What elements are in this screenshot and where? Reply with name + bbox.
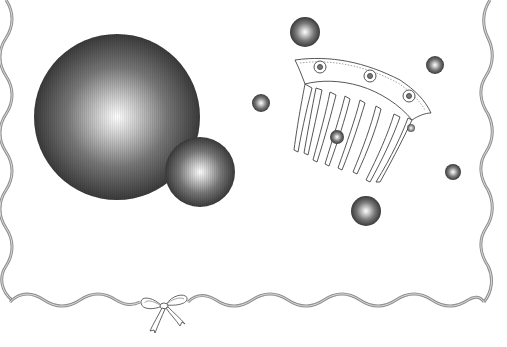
comb-sphere — [330, 130, 344, 144]
ribbon-bow-icon — [141, 295, 187, 333]
frame-bottom-ribbon — [10, 294, 484, 306]
top-sphere — [290, 17, 320, 47]
lower-right-sphere — [445, 164, 461, 180]
hair-comb-illustration — [294, 58, 431, 182]
bottom-sphere — [351, 196, 381, 226]
left-small-sphere — [252, 94, 270, 112]
right-small-sphere — [426, 56, 444, 74]
illustration-canvas — [0, 0, 507, 347]
frame-left-ribbon — [0, 0, 12, 300]
tiny-sphere — [407, 124, 415, 132]
frame-right-ribbon — [481, 0, 492, 302]
